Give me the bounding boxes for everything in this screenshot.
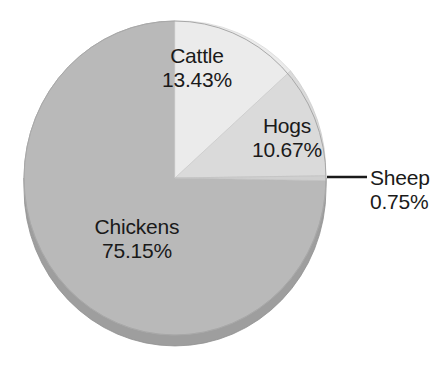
- pie-label-cattle-name: Cattle: [142, 44, 252, 68]
- pie-chart: Cattle 13.43% Hogs 10.67% Sheep 0.75% Ch…: [0, 0, 436, 367]
- pie-label-sheep-value: 0.75%: [370, 190, 436, 214]
- pie-label-cattle-value: 13.43%: [142, 68, 252, 92]
- pie-label-cattle: Cattle 13.43%: [142, 44, 252, 91]
- pie-label-sheep: Sheep 0.75%: [370, 166, 436, 213]
- pie-label-hogs-value: 10.67%: [232, 138, 342, 162]
- pie-label-chickens: Chickens 75.15%: [62, 215, 212, 262]
- pie-label-sheep-name: Sheep: [370, 166, 436, 190]
- pie-label-chickens-name: Chickens: [62, 215, 212, 239]
- pie-label-chickens-value: 75.15%: [62, 239, 212, 263]
- pie-label-hogs: Hogs 10.67%: [232, 114, 342, 161]
- pie-label-hogs-name: Hogs: [232, 114, 342, 138]
